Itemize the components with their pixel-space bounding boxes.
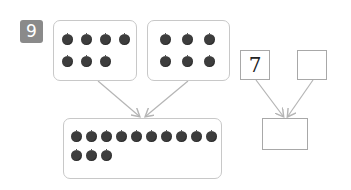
apple-icon xyxy=(100,34,111,45)
apple-icon xyxy=(86,131,97,142)
apple-icon xyxy=(146,131,157,142)
apple-group-a xyxy=(53,20,137,81)
apple-row xyxy=(160,56,215,67)
apple-icon xyxy=(160,34,171,45)
apple-icon xyxy=(62,34,73,45)
apple-icon xyxy=(100,56,111,67)
apple-icon xyxy=(86,150,97,161)
apple-icon xyxy=(182,34,193,45)
apple-row xyxy=(62,34,130,45)
apple-icon xyxy=(176,131,187,142)
apple-icon xyxy=(206,131,217,142)
apple-icon xyxy=(161,131,172,142)
arrow-group-b-to-combined xyxy=(146,81,188,116)
arrow-group-a-to-combined xyxy=(98,81,139,116)
apple-row xyxy=(71,131,217,142)
apple-icon xyxy=(191,131,202,142)
part-a-value: 7 xyxy=(249,53,262,77)
apple-row xyxy=(160,34,215,45)
part-b-answer-box[interactable] xyxy=(297,50,327,80)
apple-icon xyxy=(204,56,215,67)
apple-icon xyxy=(101,150,112,161)
apple-icon xyxy=(81,34,92,45)
apple-icon xyxy=(204,34,215,45)
apple-icon xyxy=(182,56,193,67)
arrow-part-a-to-whole xyxy=(256,80,283,116)
apple-icon xyxy=(71,131,82,142)
apple-icon xyxy=(116,131,127,142)
apple-icon xyxy=(71,150,82,161)
apple-icon xyxy=(160,56,171,67)
arrow-part-b-to-whole xyxy=(288,80,313,116)
apple-icon xyxy=(131,131,142,142)
apple-row xyxy=(71,150,112,161)
apple-group-combined xyxy=(63,118,222,179)
apple-icon xyxy=(62,56,73,67)
part-a-box: 7 xyxy=(240,50,270,80)
apple-row xyxy=(62,56,111,67)
apple-group-b xyxy=(147,20,230,81)
whole-answer-box[interactable] xyxy=(262,118,308,150)
apple-icon xyxy=(119,34,130,45)
apple-icon xyxy=(101,131,112,142)
apple-icon xyxy=(81,56,92,67)
problem-number-badge: 9 xyxy=(20,20,43,43)
